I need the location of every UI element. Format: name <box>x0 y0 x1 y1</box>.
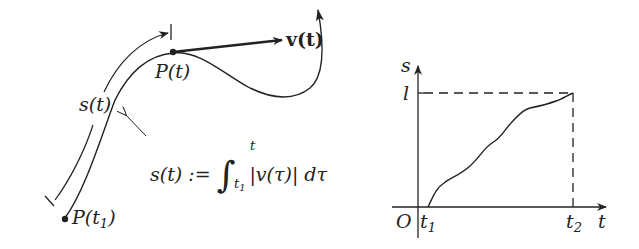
arc-length-label: s(t) <box>79 95 111 114</box>
s-of-t-curve <box>428 93 573 207</box>
point-p-t1-suffix: ) <box>108 206 115 228</box>
point-p-t1 <box>62 216 68 222</box>
integral-symbol: ∫ <box>217 154 236 195</box>
integral-upper-limit: t <box>250 138 255 153</box>
integral-lower-limit: t1 <box>234 176 246 193</box>
arc-length-formula: s(t) := ∫ t t1 |v(τ)| dτ <box>150 148 327 189</box>
t-axis-label: t <box>598 212 606 231</box>
velocity-label: v(t) <box>286 30 324 49</box>
origin-label: O <box>396 212 412 231</box>
arc-length-bracket <box>55 125 93 200</box>
s-axis-label: s <box>401 56 411 75</box>
l-level-label: l <box>403 84 409 103</box>
point-p-t-label: P(t) <box>155 62 190 81</box>
formula-integrand: |v(τ)| dτ <box>249 163 327 185</box>
point-p-t1-prefix: P(t <box>72 206 100 228</box>
t1-tick-label: t1 <box>420 212 436 234</box>
velocity-label-text: v(t) <box>286 28 324 50</box>
arc-length-text: s(t) <box>79 93 111 115</box>
point-p-t1-label: P(t1) <box>72 208 116 230</box>
point-p-t-text: P(t) <box>155 60 190 82</box>
bracket-start-tick <box>45 196 54 206</box>
formula-lhs: s(t) := <box>150 163 211 185</box>
velocity-vector <box>173 40 282 52</box>
t2-tick-label: t2 <box>566 212 582 234</box>
point-p-t1-sub: 1 <box>100 216 108 231</box>
pointer-arrow <box>126 115 146 136</box>
